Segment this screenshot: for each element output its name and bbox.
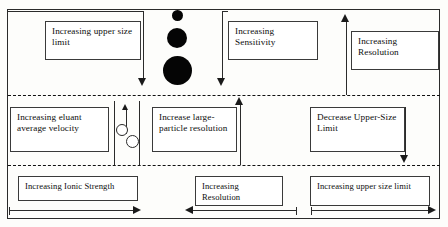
arrow-right-ionic-strength <box>133 206 141 214</box>
box-increasing-sensitivity: Increasing Sensitivity <box>228 21 318 60</box>
resolution-top-stem <box>346 22 347 95</box>
sensitivity-top-link <box>222 11 228 12</box>
channel-wall-left <box>114 101 115 165</box>
upper-size-limit-bottom-tail <box>311 207 312 215</box>
box-increasing-resolution-bottom: Increasing Resolution <box>195 176 283 206</box>
box-decrease-upper-size-limit: Decrease Upper-Size Limit <box>310 107 405 152</box>
box-increasing-eluant-average-velocity: Increasing eluant average velocity <box>10 107 109 152</box>
box-increasing-upper-size-limit: Increasing upper size limit <box>45 21 141 60</box>
band-separator-lower <box>8 165 440 166</box>
box-increasing-upper-size-limit-bottom: Increasing upper size limit <box>310 176 430 206</box>
diagram-canvas: Increasing upper size limit Increasing S… <box>0 0 448 227</box>
particle-small <box>172 10 183 21</box>
arrow-up-large-particle-resolution <box>235 97 243 105</box>
top-feed-line <box>8 11 144 12</box>
hollow-particle-lower <box>126 135 139 148</box>
arrow-down-upper-size-limit <box>138 78 146 86</box>
arrow-down-decrease-upper-size-limit <box>400 155 408 163</box>
large-particle-resolution-stem <box>240 105 241 165</box>
ionic-strength-tail <box>9 207 10 215</box>
box-increase-large-particle-resolution: Increase large-particle resolution <box>152 107 237 152</box>
box-increasing-resolution-top: Increasing Resolution <box>351 31 439 70</box>
arrow-left-resolution-bottom <box>185 206 193 214</box>
arrow-line-ionic-strength <box>9 210 134 211</box>
band-separator-upper <box>8 95 440 96</box>
hollow-particle-upper <box>116 124 128 136</box>
particle-medium <box>167 28 187 48</box>
box-increasing-ionic-strength: Increasing Ionic Strength <box>18 176 138 201</box>
sensitivity-stem <box>222 11 223 79</box>
arrow-line-resolution-bottom <box>193 210 297 211</box>
resolution-bottom-tail <box>296 207 297 215</box>
particle-large <box>163 56 192 85</box>
arrow-up-resolution-top <box>341 14 349 22</box>
arrow-down-sensitivity <box>217 78 225 86</box>
arrow-right-upper-size-limit-bottom <box>428 206 436 214</box>
arrow-line-upper-size-limit-bottom <box>311 210 429 211</box>
decrease-upper-size-limit-stem <box>405 107 406 155</box>
arrow-up-channel-flow <box>122 104 128 110</box>
channel-wall-right <box>139 101 140 165</box>
upper-size-limit-stem <box>143 11 144 79</box>
